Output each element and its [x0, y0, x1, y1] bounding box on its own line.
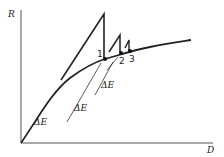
point-3-label: 3 — [129, 54, 135, 64]
point-1-label: 1 — [97, 49, 103, 59]
delta-e-label-3: ΔE — [100, 80, 114, 90]
point-2-label: 2 — [119, 56, 125, 66]
step-triangle-3 — [125, 40, 129, 51]
step-triangle-2 — [109, 35, 120, 53]
delta-e-line-1 — [67, 63, 101, 122]
delta-e-line-2 — [95, 62, 113, 95]
x-axis-label: D — [206, 145, 214, 155]
delta-e-label-2: ΔE — [73, 103, 87, 113]
y-axis-label: R — [7, 9, 15, 19]
resistance-damage-diagram: R D 1 2 3 ΔE ΔE ΔE — [0, 0, 224, 157]
point-2-marker — [119, 51, 123, 55]
resistance-curve — [21, 40, 191, 143]
point-1-marker — [103, 57, 107, 61]
delta-e-label-1: ΔE — [33, 117, 47, 127]
delta-e-line-3 — [107, 57, 118, 70]
point-3-marker — [128, 49, 132, 53]
